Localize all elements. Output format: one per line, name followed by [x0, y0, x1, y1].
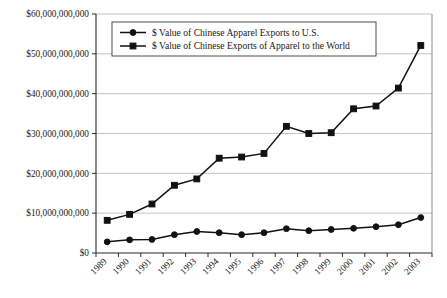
data-point-marker — [351, 225, 357, 231]
y-axis-tick-label: $60,000,000,000 — [26, 9, 89, 19]
data-point-marker — [306, 228, 312, 234]
legend-marker — [130, 30, 136, 36]
data-point-marker — [284, 123, 290, 129]
y-axis-tick-label: $10,000,000,000 — [26, 208, 89, 218]
y-axis-tick-label: $30,000,000,000 — [26, 129, 89, 139]
legend-label: $ Value of Chinese Apparel Exports to U.… — [152, 27, 319, 38]
data-point-marker — [239, 232, 245, 238]
data-point-marker — [373, 103, 379, 109]
data-point-marker — [149, 237, 155, 243]
chart-container: $0$10,000,000,000$20,000,000,000$30,000,… — [0, 0, 447, 298]
data-point-marker — [194, 229, 200, 235]
data-point-marker — [328, 227, 334, 233]
data-point-marker — [373, 224, 379, 230]
chart-legend: $ Value of Chinese Apparel Exports to U.… — [112, 22, 376, 56]
data-point-marker — [127, 211, 133, 217]
data-point-marker — [261, 151, 267, 157]
data-point-marker — [351, 106, 357, 112]
data-point-marker — [418, 215, 424, 221]
data-point-marker — [216, 230, 222, 236]
legend-label: $ Value of Chinese Exports of Apparel to… — [152, 40, 350, 51]
data-point-marker — [306, 131, 312, 137]
data-point-marker — [194, 176, 200, 182]
legend-marker — [130, 43, 136, 49]
data-point-marker — [216, 155, 222, 161]
data-point-marker — [418, 43, 424, 49]
data-point-marker — [239, 154, 245, 160]
data-point-marker — [127, 237, 133, 243]
y-axis-tick-label: $0 — [80, 248, 90, 258]
data-point-marker — [104, 217, 110, 223]
data-point-marker — [104, 239, 110, 245]
data-point-marker — [261, 230, 267, 236]
data-point-marker — [396, 222, 402, 228]
data-point-marker — [396, 85, 402, 91]
data-point-marker — [284, 226, 290, 232]
y-axis-tick-label: $50,000,000,000 — [26, 49, 89, 59]
data-point-marker — [172, 182, 178, 188]
data-point-marker — [149, 201, 155, 207]
data-point-marker — [172, 232, 178, 238]
y-axis-tick-label: $20,000,000,000 — [26, 169, 89, 179]
data-point-marker — [328, 130, 334, 136]
y-axis-tick-label: $40,000,000,000 — [26, 89, 89, 99]
line-chart: $0$10,000,000,000$20,000,000,000$30,000,… — [0, 0, 447, 298]
